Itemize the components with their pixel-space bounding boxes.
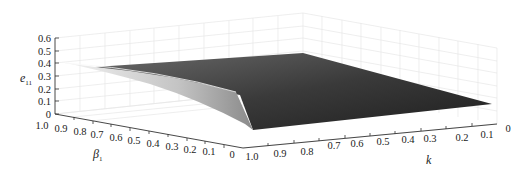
z-axis-ticks xyxy=(55,38,59,114)
svg-text:1.0: 1.0 xyxy=(245,151,258,162)
svg-text:0.2: 0.2 xyxy=(455,132,468,143)
svg-text:0.6: 0.6 xyxy=(350,138,363,149)
svg-text:0: 0 xyxy=(229,149,234,160)
svg-text:0.3: 0.3 xyxy=(423,133,436,144)
z-tick-labels: 0.6 0.5 0.4 0.3 0.2 0.1 0 xyxy=(38,33,52,120)
svg-text:0.8: 0.8 xyxy=(300,146,313,157)
svg-text:0.7: 0.7 xyxy=(90,129,103,140)
svg-text:0.4: 0.4 xyxy=(38,58,52,69)
k-axis-label: k xyxy=(426,153,432,167)
svg-text:1.0: 1.0 xyxy=(35,120,48,131)
svg-text:0.8: 0.8 xyxy=(73,126,86,137)
svg-text:0.1: 0.1 xyxy=(202,146,215,157)
beta1-axis-label: β1 xyxy=(92,147,103,163)
svg-text:0.6: 0.6 xyxy=(109,132,122,143)
svg-text:0.1: 0.1 xyxy=(38,96,51,107)
svg-text:0.9: 0.9 xyxy=(54,123,67,134)
svg-text:0.2: 0.2 xyxy=(183,144,196,155)
svg-text:0.3: 0.3 xyxy=(38,71,51,82)
beta1-tick-labels: 1.0 0.9 0.8 0.7 0.6 0.5 0.4 0.3 0.2 0.1 … xyxy=(35,120,234,160)
svg-text:0: 0 xyxy=(505,123,510,134)
svg-text:0.7: 0.7 xyxy=(327,140,340,151)
surface xyxy=(65,53,492,130)
svg-text:0.6: 0.6 xyxy=(38,33,51,44)
svg-text:0.1: 0.1 xyxy=(480,129,493,140)
plot-canvas: 0.6 0.5 0.4 0.3 0.2 0.1 0 1.0 0.9 0.8 0.… xyxy=(0,0,523,172)
svg-text:0.4: 0.4 xyxy=(401,134,415,145)
svg-text:0.3: 0.3 xyxy=(165,141,178,152)
svg-text:0.5: 0.5 xyxy=(127,135,140,146)
surface-dark-sheet xyxy=(95,53,492,130)
surface-plot: 0.6 0.5 0.4 0.3 0.2 0.1 0 1.0 0.9 0.8 0.… xyxy=(0,0,523,172)
svg-text:0.2: 0.2 xyxy=(38,84,51,95)
svg-text:0.5: 0.5 xyxy=(376,136,389,147)
svg-text:0.9: 0.9 xyxy=(273,148,286,159)
svg-text:0: 0 xyxy=(46,109,51,120)
z-axis-label: e11 xyxy=(20,71,33,87)
svg-text:0.4: 0.4 xyxy=(146,138,160,149)
k-tick-labels: 1.0 0.9 0.8 0.7 0.6 0.5 0.4 0.3 0.2 0.1 … xyxy=(245,123,510,162)
svg-text:0.5: 0.5 xyxy=(38,46,51,57)
